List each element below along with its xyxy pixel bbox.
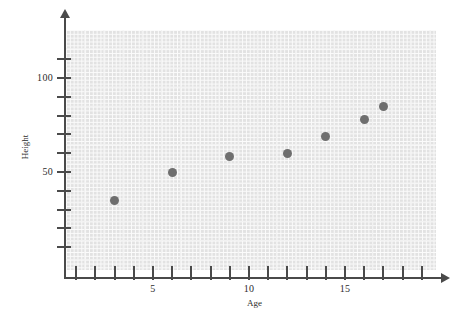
x-axis-tick [210,266,212,280]
data-point [110,196,119,205]
x-axis-tick [75,266,77,280]
y-axis-title: Height [20,117,30,177]
x-axis-title-text: Age [211,298,262,308]
x-axis-tick [267,266,269,280]
x-axis-tick-label: 10 [234,283,264,294]
x-axis-arrow-icon [441,273,450,283]
data-point [379,102,388,111]
x-axis-tick [229,266,231,280]
x-axis-tick [114,266,116,280]
y-axis-tick [57,96,71,98]
data-point [168,168,177,177]
y-axis-tick-label: 100 [5,72,53,84]
x-axis-tick [94,266,96,280]
x-axis-tick [171,266,173,280]
y-axis-tick [57,171,71,173]
x-axis-tick [248,266,250,280]
x-axis-tick [325,266,327,280]
x-axis-tick [190,266,192,280]
plot-grid-area [66,30,436,270]
x-axis-tick-label: 5 [138,283,168,294]
y-axis-tick-label-text: 50 [13,166,53,177]
x-axis-tick [382,266,384,280]
y-axis-tick [57,246,71,248]
y-axis-line [64,16,66,278]
y-axis-tick [57,133,71,135]
data-point [360,115,369,124]
x-axis-tick [133,266,135,280]
x-axis-tick [344,266,346,280]
y-axis-tick [57,77,71,79]
x-axis-tick [363,266,365,280]
x-axis-tick [152,266,154,280]
x-axis-tick [286,266,288,280]
y-axis-tick-label-text: 100 [13,72,53,83]
data-point [283,149,292,158]
y-axis-tick [57,190,71,192]
y-axis-tick [57,115,71,117]
y-axis-tick [57,209,71,211]
x-axis-line [64,277,442,279]
y-axis-tick [57,227,71,229]
y-axis-arrow-icon [60,9,70,18]
x-axis-tick [306,266,308,280]
scatter-plot-figure: 50100 51015 Age Height [0,0,473,316]
y-axis-tick [57,152,71,154]
x-axis-title: Age [0,298,473,308]
x-axis-tick [402,266,404,280]
x-axis-tick-label: 15 [330,283,360,294]
y-axis-tick [57,58,71,60]
x-axis-tick [421,266,423,280]
